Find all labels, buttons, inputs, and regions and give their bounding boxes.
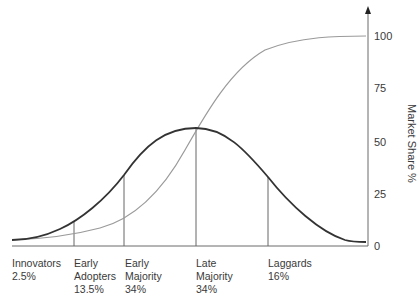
- y-tick-100: 100: [374, 30, 392, 42]
- label-early-adopters: Early Adopters 13.5%: [74, 257, 116, 295]
- y-tick-50: 50: [374, 136, 386, 148]
- y-tick-0: 0: [374, 240, 380, 252]
- y-tick-25: 25: [374, 188, 386, 200]
- label-early-majority: Early Majority 34%: [125, 257, 162, 295]
- market-share-s-curve: [12, 36, 366, 240]
- label-innovators: Innovators 2.5%: [12, 257, 61, 283]
- chart-canvas: [0, 0, 419, 295]
- adoption-bell-curve: [12, 128, 366, 242]
- y-axis-title: Market Share %: [406, 104, 418, 183]
- label-laggards: Laggards 16%: [268, 257, 312, 283]
- y-tick-75: 75: [374, 82, 386, 94]
- y-axis-arrow-icon: [365, 6, 371, 14]
- label-late-majority: Late Majority 34%: [196, 257, 233, 295]
